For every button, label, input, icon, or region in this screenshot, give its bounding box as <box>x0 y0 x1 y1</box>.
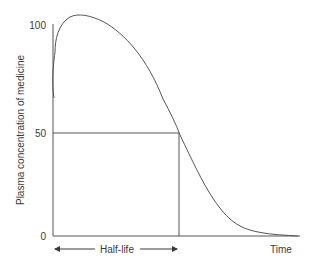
y-tick-100: 100 <box>29 20 46 31</box>
y-axis-label: Plasma concentration of medicine <box>15 55 26 206</box>
x-axis-label: Time <box>270 244 292 255</box>
concentration-curve <box>53 15 298 236</box>
chart: 100 50 0 Plasma concentration of medicin… <box>0 0 316 269</box>
y-tick-0: 0 <box>40 231 46 242</box>
half-life-label: Half-life <box>100 244 134 255</box>
y-tick-50: 50 <box>35 128 47 139</box>
